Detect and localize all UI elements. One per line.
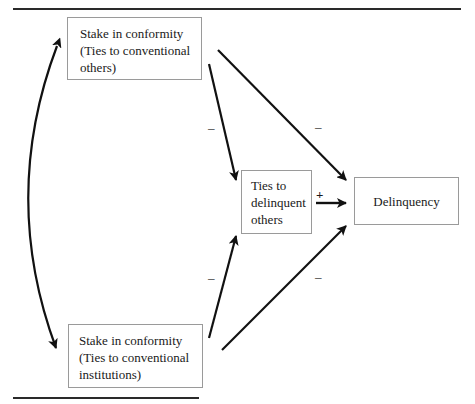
correlation-arrow [28,46,57,348]
sign-ties-to-delinquency: + [316,188,323,201]
node-text-line: others) [80,59,201,76]
node-text-line: others [251,211,311,228]
sign-stake-others-to-ties: – [208,121,215,134]
node-ties-to-delinquent-others: Ties to delinquent others [241,170,312,234]
node-delinquency: Delinquency [354,177,459,225]
node-label: Delinquency [373,193,439,210]
node-text-line: Stake in conformity [79,332,202,349]
arrow-stake-institutions-to-delinquency [222,226,346,350]
node-text-line: institutions) [79,366,202,383]
sign-stake-others-to-delinquency: – [315,120,322,133]
node-stake-in-conformity-institutions: Stake in conformity (Ties to conventiona… [68,324,203,388]
node-text-line: Stake in conformity [80,25,201,42]
sign-stake-institutions-to-delinquency: – [315,270,322,283]
node-text-line: (Ties to conventional [79,349,202,366]
arrow-stake-others-to-delinquency [218,50,346,180]
node-text-line: (Ties to conventional [80,42,201,59]
node-text-line: delinquent [251,194,311,211]
sign-stake-institutions-to-ties: – [208,271,215,284]
node-text-line: Ties to [251,177,311,194]
node-stake-in-conformity-others: Stake in conformity (Ties to conventiona… [67,17,202,80]
arrow-stake-institutions-to-ties [209,236,236,338]
